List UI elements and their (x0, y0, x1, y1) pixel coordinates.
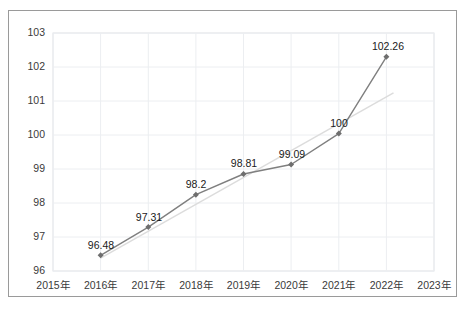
chart-container: 103 102 101 100 99 98 97 96 2015年 2016年 … (8, 10, 457, 297)
x-axis-tick-2017: 2017年 (124, 277, 172, 292)
y-axis-tick-96: 96 (11, 264, 45, 276)
data-label-2016: 96.48 (77, 239, 125, 251)
y-axis-tick-98: 98 (11, 196, 45, 208)
x-axis-tick-2023: 2023年 (410, 277, 458, 292)
y-axis-tick-100: 100 (11, 128, 45, 140)
data-label-2021: 100 (315, 117, 363, 129)
x-axis-tick-2018: 2018年 (172, 277, 220, 292)
data-label-2022: 102.26 (362, 40, 414, 52)
x-axis-tick-2016: 2016年 (77, 277, 125, 292)
y-axis-tick-101: 101 (11, 94, 45, 106)
data-label-2018: 98.2 (172, 178, 220, 190)
x-axis-tick-2021: 2021年 (315, 277, 363, 292)
chart-plot-svg (9, 11, 458, 298)
x-axis-tick-2022: 2022年 (362, 277, 410, 292)
x-axis-tick-2015: 2015年 (29, 277, 77, 292)
y-axis-tick-97: 97 (11, 230, 45, 242)
data-label-2019: 98.81 (220, 157, 268, 169)
x-axis-tick-2019: 2019年 (220, 277, 268, 292)
y-axis-tick-102: 102 (11, 60, 45, 72)
data-label-2017: 97.31 (125, 211, 173, 223)
y-axis-tick-99: 99 (11, 162, 45, 174)
data-label-2020: 99.09 (268, 148, 316, 160)
y-axis-tick-103: 103 (11, 26, 45, 38)
x-axis-tick-2020: 2020年 (267, 277, 315, 292)
